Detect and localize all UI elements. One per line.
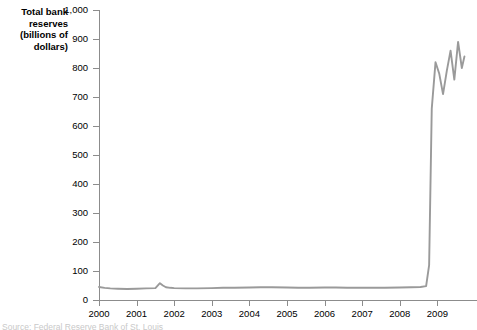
bank-reserves-line	[99, 42, 464, 289]
source-note: Source: Federal Reserve Bank of St. Loui…	[2, 322, 163, 330]
series-layer	[0, 0, 477, 330]
chart-figure: Total bank reserves (billions of dollars…	[0, 0, 477, 330]
